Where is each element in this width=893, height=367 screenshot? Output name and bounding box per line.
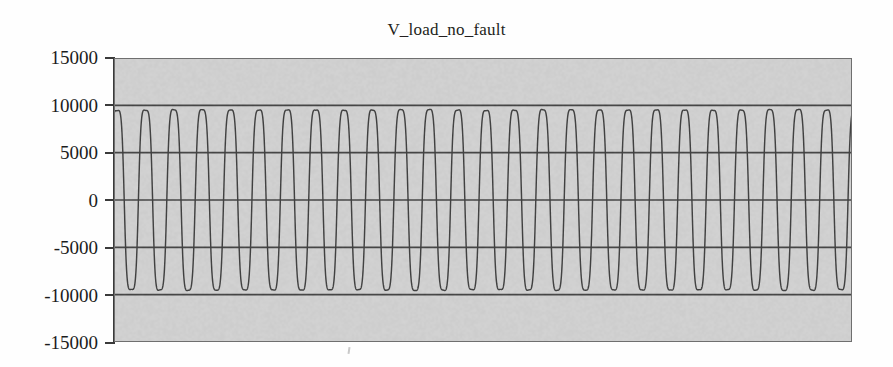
- y-tick-label-5000: 5000: [60, 143, 98, 162]
- y-tick-mark--15000: [105, 342, 115, 344]
- plot-area: [114, 58, 852, 342]
- y-tick-label--15000: -15000: [44, 333, 98, 352]
- chart-title: V_load_no_fault: [0, 19, 893, 40]
- y-tick-label-0: 0: [89, 191, 99, 210]
- y-tick-label--5000: -5000: [54, 238, 98, 257]
- y-tick-label-10000: 10000: [51, 96, 99, 115]
- y-tick-label-15000: 15000: [51, 48, 99, 67]
- scan-artifact-speck: [348, 347, 351, 354]
- chart-figure: V_load_no_fault 15000 10000 5000 0 -5000…: [0, 0, 893, 367]
- waveform-series-v-load-no-fault: [114, 58, 852, 342]
- y-tick-label--10000: -10000: [44, 286, 98, 305]
